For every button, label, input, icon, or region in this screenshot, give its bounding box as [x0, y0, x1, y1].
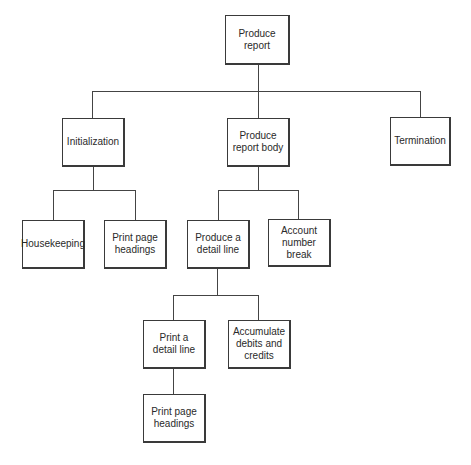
- node-produce-report-body: Produce report body: [227, 118, 290, 167]
- connector: [92, 91, 93, 118]
- connector: [53, 190, 136, 191]
- connector: [258, 166, 259, 190]
- connector: [173, 368, 174, 394]
- connector: [173, 295, 174, 320]
- connector: [92, 91, 421, 92]
- connector: [173, 295, 259, 296]
- node-termination: Termination: [390, 117, 451, 166]
- connector: [93, 166, 94, 190]
- node-print-page-headings-2: Print page headings: [143, 394, 206, 443]
- connector: [218, 190, 299, 191]
- node-print-detail-line: Print a detail line: [143, 320, 206, 369]
- connector: [217, 268, 218, 295]
- connector: [420, 91, 421, 117]
- node-accumulate-debits-credits: Accumulate debits and credits: [228, 320, 291, 369]
- node-produce-detail-line: Produce a detail line: [187, 220, 250, 269]
- connector: [218, 190, 219, 220]
- node-produce-report: Produce report: [225, 15, 290, 65]
- connector: [135, 190, 136, 220]
- connector: [53, 190, 54, 220]
- connector: [258, 64, 259, 91]
- node-print-page-headings: Print page headings: [104, 220, 167, 269]
- node-account-number-break: Account number break: [268, 219, 331, 267]
- connector: [258, 295, 259, 320]
- node-initialization: Initialization: [62, 118, 125, 167]
- connector: [258, 91, 259, 118]
- node-housekeeping: Housekeeping: [22, 220, 85, 269]
- connector: [298, 190, 299, 219]
